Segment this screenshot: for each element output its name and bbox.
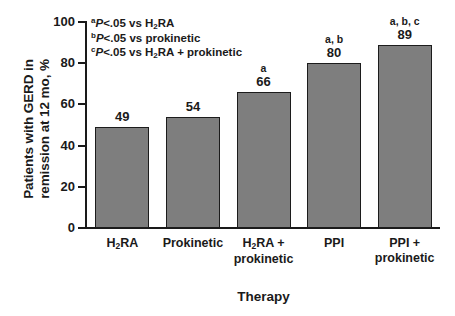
bar-value-label: 89 [375,28,435,42]
x-axis-tick-label: PPI +prokinetic [360,236,450,265]
bar [95,127,149,228]
y-axis-tick [78,186,86,188]
significance-footnote-line: cP<.05 vs H2RA + prokinetic [91,46,242,61]
y-axis-tick [78,21,86,23]
bar-significance-marker: a [234,62,294,74]
y-axis-tick-label: 40 [33,139,75,152]
bar [378,45,432,228]
x-axis-title-text: Therapy [237,289,290,304]
bar [237,92,291,228]
y-axis-title-line1: Patients with GERD in [21,59,37,199]
bar [307,63,361,228]
y-axis-tick-label: 20 [33,180,75,193]
x-axis-title: Therapy [0,289,455,304]
y-axis-line [85,21,87,229]
bar-significance-marker: a, b, c [375,15,435,27]
bar-value-label: 49 [92,110,152,124]
bar-significance-marker: a, b [304,33,364,45]
y-axis-title-line2: remission at 12 mo, % [37,59,53,199]
significance-footnote-line: bP<.05 vs prokinetic [91,32,242,47]
y-axis-tick-label: 80 [33,56,75,69]
y-axis-tick [78,62,86,64]
bar-value-label: 54 [163,100,223,114]
x-axis-tick-label-line2: prokinetic [219,252,309,267]
y-axis-tick [78,145,86,147]
significance-footnote-legend: aP<.05 vs H2RAbP<.05 vs prokineticcP<.05… [91,17,242,61]
y-axis-tick [78,227,86,229]
gerd-remission-bar-chart: Patients with GERD in remission at 12 mo… [0,0,455,316]
y-axis-tick-label: 100 [33,15,75,28]
y-axis-tick [78,103,86,105]
bar [166,117,220,228]
x-axis-tick-label-line2: prokinetic [360,251,450,266]
x-axis-tick-label-line1: PPI + [360,236,450,251]
bar-value-label: 80 [304,46,364,60]
bar-value-label: 66 [234,75,294,89]
y-axis-tick-label: 60 [33,97,75,110]
significance-footnote-line: aP<.05 vs H2RA [91,17,242,32]
y-axis-tick-label: 0 [33,221,75,234]
y-axis-title: Patients with GERD in remission at 12 mo… [17,14,57,244]
